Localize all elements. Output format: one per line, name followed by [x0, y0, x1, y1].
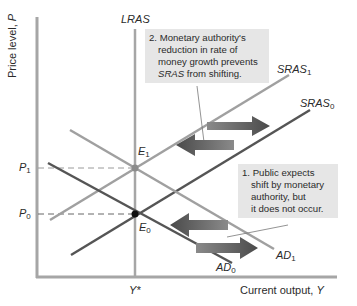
- note-monetary-authority: 2. Monetary authority's reduction in rat…: [145, 29, 269, 83]
- ad0-label: AD0: [216, 262, 236, 275]
- sras1-label: SRAS1: [277, 64, 311, 77]
- note1-line4: it does not occur.: [242, 203, 334, 215]
- y-axis-title-text: Price level,: [6, 21, 18, 78]
- y-axis-title: Price level, P: [6, 14, 18, 78]
- y-axis-title-var: P: [6, 14, 18, 21]
- p1-label: P1: [19, 162, 31, 175]
- ad0-main: AD: [216, 261, 231, 273]
- sras1-main: SRAS: [277, 63, 307, 75]
- note2-line3: money growth prevents: [149, 56, 265, 68]
- note1-line1: 1. Public expects: [242, 167, 334, 179]
- e0-sub: 0: [146, 226, 150, 235]
- sras0-label: SRAS0: [300, 98, 334, 111]
- arrow-right-ad: [196, 237, 258, 259]
- x-axis-title-var: Y: [316, 284, 323, 296]
- note2-sras: SRAS: [158, 68, 184, 79]
- e0-point: [132, 211, 139, 218]
- sras1-sub: 1: [307, 68, 311, 77]
- e0-label: E0: [139, 222, 151, 235]
- note1-line2: shift by monetary: [242, 179, 334, 191]
- p1-sub: 1: [26, 166, 30, 175]
- ad0-sub: 0: [231, 266, 235, 275]
- ad1-sub: 1: [291, 254, 295, 263]
- note-public-expects: 1. Public expects shift by monetary auth…: [238, 164, 338, 218]
- note2-rest: from shifting.: [184, 68, 242, 79]
- ad1-main: AD: [276, 249, 291, 261]
- p0-sub: 0: [26, 212, 30, 221]
- x-axis-title-text: Current output,: [240, 284, 316, 296]
- ad1-label: AD1: [276, 250, 296, 263]
- e1-label: E1: [138, 146, 150, 159]
- lras-label: LRAS: [121, 14, 150, 25]
- e1-point: [132, 165, 139, 172]
- note2-line4: SRAS from shifting.: [149, 68, 265, 80]
- x-axis-title: Current output, Y: [240, 285, 324, 296]
- note2-line2: reduction in rate of: [149, 44, 265, 56]
- sras0-sub: 0: [330, 102, 334, 111]
- sras0-main: SRAS: [300, 97, 330, 109]
- note1-line3: authority, but: [242, 191, 334, 203]
- note2-line1: 2. Monetary authority's: [149, 32, 265, 44]
- note2-pointer: [197, 86, 204, 142]
- e1-sub: 1: [145, 150, 149, 159]
- p0-label: P0: [19, 208, 31, 221]
- y-star-label: Y*: [129, 285, 141, 296]
